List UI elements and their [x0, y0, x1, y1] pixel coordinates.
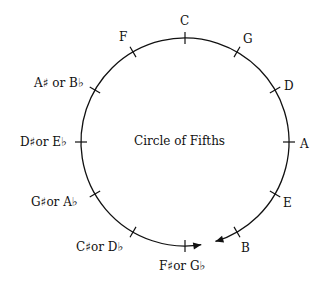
note-label-g: G	[243, 32, 253, 46]
note-label-f-sharp: F♯or G♭	[159, 259, 205, 273]
circle-of-fifths-diagram: Circle of Fifths C G D A E B F♯or G♭ C♯o…	[0, 0, 325, 282]
tick-mark	[270, 191, 280, 197]
note-label-a: A	[300, 137, 309, 151]
diagram-title: Circle of Fifths	[134, 134, 225, 148]
note-label-f: F	[119, 30, 127, 44]
arrowhead-left-icon	[193, 243, 201, 250]
tick-mark	[234, 47, 240, 57]
arrowhead-right-icon	[215, 236, 224, 243]
note-label-c: C	[180, 14, 189, 28]
note-label-b: B	[241, 241, 250, 255]
note-label-e: E	[283, 196, 292, 210]
tick-mark	[130, 47, 136, 57]
note-label-c-sharp: C♯or D♭	[76, 240, 123, 254]
tick-mark	[90, 87, 100, 93]
note-label-g-sharp: G♯or A♭	[31, 195, 78, 209]
tick-mark	[130, 227, 136, 237]
note-label-d-sharp: D♯or E♭	[20, 135, 67, 149]
tick-mark	[234, 227, 240, 237]
tick-mark	[90, 191, 100, 197]
note-label-a-sharp: A♯ or B♭	[34, 76, 84, 90]
note-label-d: D	[284, 79, 294, 93]
tick-mark	[270, 87, 280, 93]
